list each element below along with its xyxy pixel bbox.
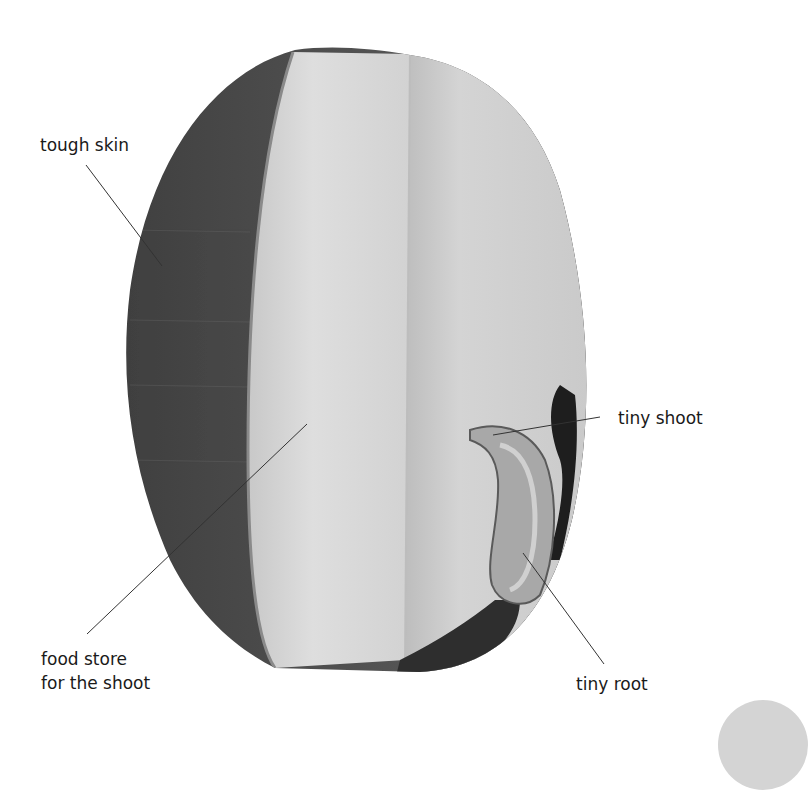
leader-line-tiny-root <box>523 553 604 664</box>
corner-decoration <box>718 700 808 790</box>
label-tiny-root: tiny root <box>576 672 648 696</box>
label-tough-skin: tough skin <box>40 133 129 157</box>
label-food-store-line1: food store <box>41 647 127 671</box>
food-store-left-half <box>248 52 410 668</box>
label-food-store-line2: for the shoot <box>41 671 150 695</box>
label-tiny-shoot: tiny shoot <box>618 406 703 430</box>
